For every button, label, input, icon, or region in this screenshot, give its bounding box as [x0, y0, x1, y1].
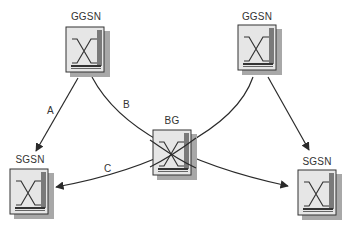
ggsn-left-switch-icon	[66, 27, 110, 77]
edge-a	[36, 78, 78, 151]
sgsn-right-switch-icon	[298, 170, 342, 220]
sgsn-right-label: SGSN	[292, 156, 342, 167]
ggsn-right-label: GGSN	[232, 11, 282, 22]
sgsn-left-label: SGSN	[5, 154, 55, 165]
ggsn-right-switch-icon	[238, 25, 282, 75]
edge-label-c: C	[104, 163, 111, 174]
edge-label-b: B	[123, 99, 130, 110]
network-diagram: GGSN GGSN BG SGSN SGSN A B C	[0, 0, 351, 233]
edge-label-a: A	[47, 105, 54, 116]
bg-switch-icon	[153, 130, 197, 180]
ggsn-left-label: GGSN	[61, 11, 111, 22]
bg-label: BG	[147, 115, 197, 126]
edge-d	[268, 77, 309, 150]
sgsn-left-switch-icon	[10, 169, 54, 219]
